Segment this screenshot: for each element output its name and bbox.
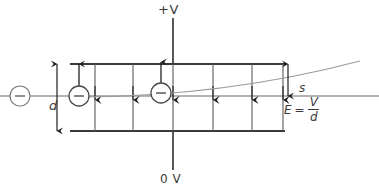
physics-diagram-canvas: +V 0 V d s E = V d bbox=[0, 0, 379, 194]
field-equation-equals: = bbox=[295, 103, 305, 117]
deflection-label: s bbox=[299, 81, 305, 95]
electron-at-plate-edge bbox=[69, 86, 89, 106]
diagram-svg bbox=[0, 0, 379, 194]
plate-separation-label: d bbox=[49, 98, 57, 113]
field-equation-denominator: d bbox=[308, 111, 320, 123]
field-equation: E = V d bbox=[284, 96, 320, 123]
positive-voltage-label: +V bbox=[158, 2, 179, 17]
electron-entering bbox=[10, 86, 30, 106]
electron-trajectory-curve bbox=[76, 61, 360, 97]
field-equation-numerator: V bbox=[308, 96, 320, 108]
field-equation-fraction: V d bbox=[308, 96, 320, 123]
zero-voltage-label: 0 V bbox=[160, 172, 181, 186]
electron-mid-field bbox=[151, 83, 171, 103]
electric-field-lines bbox=[95, 64, 283, 131]
field-equation-lhs: E bbox=[284, 103, 292, 117]
